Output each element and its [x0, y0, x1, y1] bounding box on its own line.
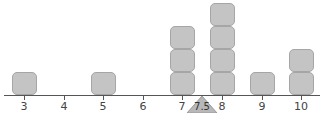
data-block — [12, 72, 37, 95]
data-block — [170, 72, 195, 95]
data-block — [210, 26, 235, 49]
dot-plot: 3456789107.5 — [0, 0, 322, 134]
data-block — [170, 26, 195, 49]
data-block — [210, 3, 235, 26]
x-tick-label: 5 — [88, 100, 118, 113]
data-block — [170, 49, 195, 72]
x-tick-label: 10 — [286, 100, 316, 113]
x-tick-label: 3 — [9, 100, 39, 113]
mean-label: 7.5 — [187, 101, 217, 112]
x-tick-label: 6 — [128, 100, 158, 113]
x-tick-label: 4 — [49, 100, 79, 113]
x-tick-label: 9 — [247, 100, 277, 113]
data-block — [91, 72, 116, 95]
data-block — [210, 72, 235, 95]
data-block — [250, 72, 275, 95]
data-block — [289, 72, 314, 95]
data-block — [210, 49, 235, 72]
x-axis-line — [4, 95, 320, 96]
data-block — [289, 49, 314, 72]
